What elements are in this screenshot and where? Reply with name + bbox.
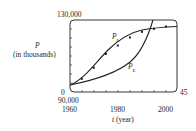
x-tick-1980: 1980	[110, 106, 125, 114]
y-axis-symbol: P	[35, 42, 40, 50]
curve-logistic-PL	[70, 27, 177, 86]
data-points	[81, 26, 167, 80]
curve-label-PE-sub: E	[133, 68, 136, 73]
y-min-label: 90,000	[58, 97, 79, 105]
curve-exponential-PE	[70, 20, 153, 85]
x-tick-1960: 1960	[62, 106, 77, 114]
y-max-label: 130,000	[57, 11, 81, 19]
curve-label-PE: PE	[128, 63, 136, 73]
y-axis-symbol-text: P	[35, 41, 40, 50]
x-tick-2000: 2000	[158, 106, 173, 114]
y-axis-unit: (in thousands)	[13, 51, 56, 59]
curve-label-PL: PL	[112, 33, 120, 43]
x-axis-title: t (year)	[112, 116, 134, 124]
x-axis-unit: (year)	[116, 115, 134, 124]
x-axis-symbol: t	[112, 115, 114, 124]
curve-label-PL-sub: L	[117, 38, 120, 43]
x-max-label: 45	[180, 89, 188, 97]
